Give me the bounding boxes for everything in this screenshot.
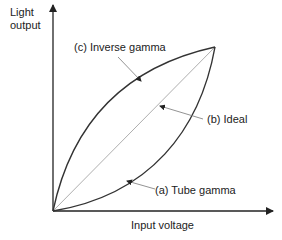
leader-inverse-gamma bbox=[118, 57, 141, 81]
label-ideal: (b) Ideal bbox=[207, 113, 247, 126]
y-axis-label: Light output bbox=[10, 6, 41, 32]
label-inverse-gamma: (c) Inverse gamma bbox=[74, 41, 166, 54]
x-axis-label: Input voltage bbox=[131, 219, 194, 232]
y-axis-label-line1: Light bbox=[10, 6, 41, 19]
label-tube-gamma: (a) Tube gamma bbox=[155, 184, 236, 197]
y-axis-label-line2: output bbox=[10, 19, 41, 32]
leader-tube-gamma bbox=[127, 181, 155, 189]
